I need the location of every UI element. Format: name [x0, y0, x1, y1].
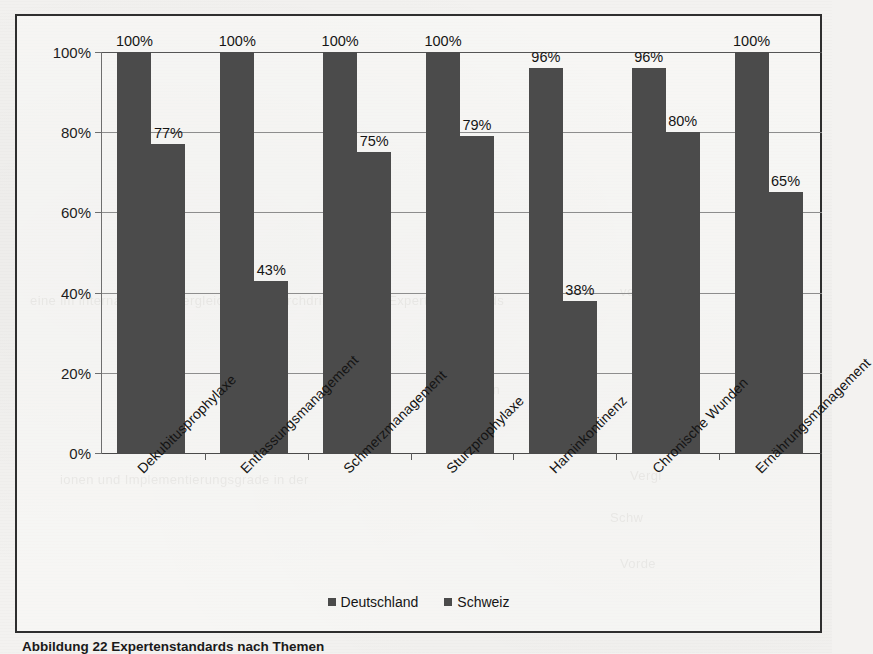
- bar-value-label: 65%: [771, 173, 800, 189]
- bar-deutschland-4: [529, 68, 563, 453]
- bar-value-label: 100%: [424, 33, 461, 49]
- bar-schweiz-5: [666, 132, 700, 453]
- chart-legend: Deutschland Schweiz: [17, 594, 820, 610]
- x-axis-tick: [308, 453, 309, 460]
- legend-label: Deutschland: [341, 594, 419, 610]
- bar-schweiz-3: [460, 136, 494, 453]
- bar-schweiz-2: [357, 152, 391, 453]
- bar-value-label: 100%: [219, 33, 256, 49]
- y-axis-tick: [95, 212, 102, 213]
- y-gridline: [102, 52, 822, 53]
- y-axis-label: 80%: [61, 124, 91, 141]
- y-axis-tick: [95, 373, 102, 374]
- y-axis-label: 40%: [61, 284, 91, 301]
- x-axis-tick: [513, 453, 514, 460]
- bar-value-label: 38%: [565, 282, 594, 298]
- y-axis-tick: [95, 453, 102, 454]
- bar-value-label: 100%: [733, 33, 770, 49]
- y-axis-label: 100%: [53, 44, 91, 61]
- legend-swatch-icon: [328, 598, 336, 606]
- x-axis-tick: [205, 453, 206, 460]
- legend-item-deutschland: Deutschland: [328, 594, 419, 610]
- bar-value-label: 79%: [462, 117, 491, 133]
- bar-value-label: 96%: [531, 49, 560, 65]
- bar-deutschland-0: [117, 52, 151, 453]
- x-axis-tick: [719, 453, 720, 460]
- y-axis-label: 20%: [61, 364, 91, 381]
- y-axis-label: 0%: [69, 445, 91, 462]
- figure-caption: Abbildung 22 Expertenstandards nach Them…: [22, 639, 324, 654]
- bar-value-label: 100%: [116, 33, 153, 49]
- legend-label: Schweiz: [457, 594, 509, 610]
- bar-value-label: 100%: [322, 33, 359, 49]
- y-axis-label: 60%: [61, 204, 91, 221]
- bar-value-label: 43%: [257, 262, 286, 278]
- legend-item-schweiz: Schweiz: [444, 594, 509, 610]
- x-axis-tick: [616, 453, 617, 460]
- x-axis-tick: [411, 453, 412, 460]
- legend-swatch-icon: [444, 598, 452, 606]
- bar-schweiz-0: [151, 144, 185, 453]
- bar-deutschland-5: [632, 68, 666, 453]
- bar-value-label: 77%: [154, 125, 183, 141]
- y-axis-tick: [95, 132, 102, 133]
- figure-frame: 0%20%40%60%80%100%100%77%100%43%100%75%1…: [15, 14, 822, 633]
- bar-value-label: 80%: [668, 113, 697, 129]
- y-axis-tick: [95, 293, 102, 294]
- bar-schweiz-6: [769, 192, 803, 453]
- bar-value-label: 96%: [634, 49, 663, 65]
- y-axis-tick: [95, 52, 102, 53]
- bar-value-label: 75%: [360, 133, 389, 149]
